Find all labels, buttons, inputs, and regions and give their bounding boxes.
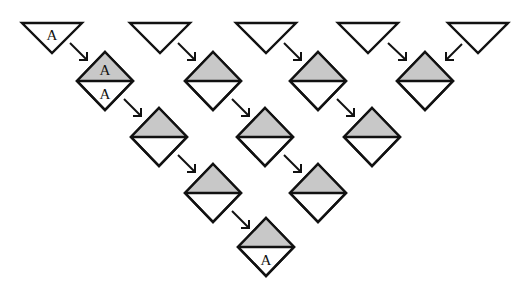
triangle-node <box>338 23 398 53</box>
arrow-icon <box>284 43 301 60</box>
arrow-shaft <box>232 99 249 116</box>
triangle-label: A <box>47 27 58 43</box>
arrow-icon <box>232 99 249 116</box>
arrow-icon <box>232 211 249 228</box>
arrow-icon <box>446 44 462 60</box>
arrow-icon <box>337 99 354 116</box>
arrow-icon <box>178 43 195 60</box>
arrow-shaft <box>124 99 141 116</box>
arrow-shaft <box>284 43 301 60</box>
arrow-shaft <box>232 211 249 228</box>
cascade-diagram: A AAA <box>0 0 522 295</box>
diamond-bottom-label: A <box>100 86 111 102</box>
triangle-node <box>236 23 296 53</box>
arrow-icon <box>388 43 406 60</box>
triangle-node <box>130 23 190 53</box>
diamond-shaded-half <box>238 218 294 247</box>
diamonds-layer: AAA <box>77 52 453 276</box>
arrow-shaft <box>337 99 354 116</box>
diamond-shaded-half <box>131 108 187 137</box>
arrow-icon <box>70 43 87 60</box>
arrow-icon <box>178 155 195 172</box>
arrow-icon <box>124 99 141 116</box>
triangle-shape <box>338 23 398 53</box>
diamond-shaded-half <box>185 164 241 193</box>
arrow-shaft <box>178 155 195 172</box>
triangle-shape <box>236 23 296 53</box>
triangles-layer: A <box>22 23 508 53</box>
diamond-shaded-half <box>185 52 241 81</box>
triangle-node: A <box>22 23 82 53</box>
arrow-shaft <box>70 43 87 60</box>
arrow-shaft <box>446 44 462 60</box>
arrow-shaft <box>388 43 406 60</box>
triangle-shape <box>130 23 190 53</box>
arrow-shaft <box>178 43 195 60</box>
arrow-icon <box>284 155 301 172</box>
diamond-top-label: A <box>100 62 111 78</box>
diamond-bottom-label: A <box>261 252 272 268</box>
arrow-shaft <box>284 155 301 172</box>
diamond-shaded-half <box>344 108 400 137</box>
